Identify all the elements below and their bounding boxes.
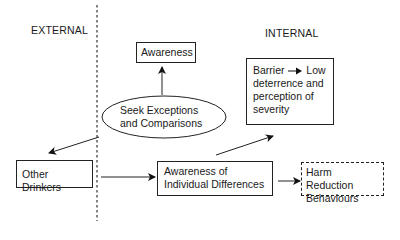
seek-exceptions-line2: and Comparisons (120, 117, 202, 130)
barrier-arrow-icon (287, 67, 303, 75)
barrier-line4: severity (253, 103, 327, 116)
arrow-seek-to-other-drinkers (49, 137, 99, 153)
individual-differences-box: Awareness of Individual Differences (157, 161, 273, 196)
seek-exceptions-text: Seek Exceptions and Comparisons (120, 104, 202, 130)
awareness-box: Awareness (136, 42, 196, 63)
individual-differences-line1: Awareness of (164, 165, 266, 178)
barrier-after-arrow-text: Low (306, 64, 325, 76)
barrier-lead-text: Barrier (253, 64, 285, 76)
barrier-line3: perception of (253, 90, 327, 103)
other-drinkers-text: Other Drinkers (22, 168, 61, 193)
internal-region-label: INTERNAL (265, 27, 319, 39)
barrier-box: Barrier Low deterrence and perception of… (246, 58, 334, 125)
barrier-line2: deterrence and (253, 77, 327, 90)
other-drinkers-box: Other Drinkers (16, 160, 93, 188)
seek-exceptions-line1: Seek Exceptions (120, 104, 202, 117)
awareness-text: Awareness (141, 46, 193, 58)
harm-reduction-line1: Harm Reduction (306, 166, 379, 192)
external-region-label: EXTERNAL (31, 24, 88, 36)
arrow-individual-differences-to-barrier (216, 136, 273, 155)
barrier-line1: Barrier Low (253, 64, 327, 77)
harm-reduction-box: Harm Reduction Behaviours (301, 162, 384, 196)
harm-reduction-line2: Behaviours (306, 192, 379, 205)
individual-differences-line2: Individual Differences (164, 178, 266, 191)
